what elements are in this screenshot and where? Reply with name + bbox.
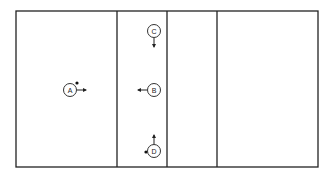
ball-dot-icon (75, 81, 78, 84)
player-label: D (151, 148, 156, 155)
player-label: B (152, 87, 157, 94)
player-d: D (144, 135, 160, 158)
player-label: A (68, 87, 73, 94)
court-diagram: A B C D (0, 0, 332, 177)
player-c: C (148, 25, 161, 48)
player-label: C (151, 28, 156, 35)
player-a: A (64, 81, 87, 96)
player-b: B (138, 84, 161, 97)
